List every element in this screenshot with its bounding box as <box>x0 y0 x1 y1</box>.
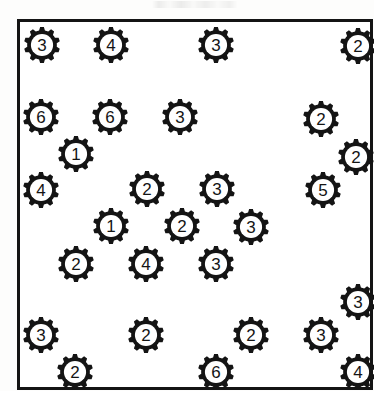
gear-digit-label: 6 <box>36 108 45 127</box>
gear-digit-label: 3 <box>353 293 362 312</box>
gear-digit-label: 3 <box>316 326 325 345</box>
scanned-worksheet-page: 3432663212423512324333223264 <box>0 0 391 407</box>
gear-digit-label: 2 <box>177 217 186 236</box>
gear-digit-label: 4 <box>106 36 115 55</box>
gear-digit-label: 3 <box>37 36 46 55</box>
page-header-smudge <box>152 1 238 8</box>
gear-digit-label: 3 <box>211 36 220 55</box>
gear-digit-label: 2 <box>71 255 80 274</box>
bottom-margin-mask <box>0 391 391 407</box>
gear-digit-label: 4 <box>141 255 150 274</box>
right-margin-mask <box>374 0 391 407</box>
gear-digit-label: 4 <box>36 181 45 200</box>
diagram-frame: 3432663212423512324333223264 <box>17 19 373 390</box>
gear-digit-label: 3 <box>175 108 184 127</box>
gear-digit-label: 4 <box>353 363 362 382</box>
gear-digit-label: 3 <box>36 326 45 345</box>
gear-digit-label: 2 <box>316 110 325 129</box>
gear-digit-label: 2 <box>142 180 151 199</box>
gear-digit-label: 5 <box>318 181 327 200</box>
gear-digit-label: 3 <box>246 218 255 237</box>
gear-digit-label: 3 <box>212 180 221 199</box>
gear-digit-label: 2 <box>141 326 150 345</box>
gear-digit-label: 6 <box>105 108 114 127</box>
gear-digit-label: 1 <box>106 217 115 236</box>
gear-digit-label: 1 <box>71 145 80 164</box>
gear-digit-label: 2 <box>246 326 255 345</box>
gear-digit-label: 6 <box>211 363 220 382</box>
gear-digit-label: 2 <box>70 363 79 382</box>
gear-digit-label: 2 <box>353 37 362 56</box>
gear-digit-label: 3 <box>211 255 220 274</box>
gear-digit-label: 2 <box>351 148 360 167</box>
